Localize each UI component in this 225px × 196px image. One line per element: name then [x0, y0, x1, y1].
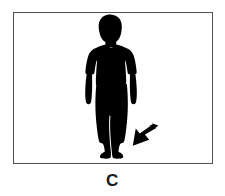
right-arm-shape	[130, 73, 137, 104]
panel-label: C	[0, 171, 225, 191]
panel-frame	[13, 12, 213, 164]
figure-panel: C	[0, 0, 225, 196]
silhouette-illustration	[14, 13, 212, 163]
standing-child-silhouette	[85, 14, 137, 158]
head-shape	[99, 14, 122, 43]
left-arm-shape	[85, 73, 92, 104]
shirt-shape	[85, 44, 136, 88]
feet-pointer-arrow	[133, 122, 159, 146]
pants-and-feet-shape	[95, 84, 127, 159]
